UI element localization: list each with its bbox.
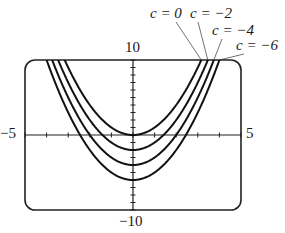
y-min-label: −10 bbox=[119, 213, 142, 230]
curve-label-c0: c = 0 bbox=[150, 5, 182, 22]
x-max-label: 5 bbox=[246, 125, 254, 142]
curve-label-c-6: c = −6 bbox=[236, 37, 278, 54]
x-min-label: −5 bbox=[0, 125, 16, 142]
leader-line bbox=[198, 22, 208, 60]
leader-line bbox=[219, 54, 244, 60]
leader-line bbox=[176, 22, 201, 60]
y-max-label: 10 bbox=[125, 39, 140, 56]
leader-line bbox=[214, 39, 222, 60]
curve-label-c-2: c = −2 bbox=[190, 5, 232, 22]
